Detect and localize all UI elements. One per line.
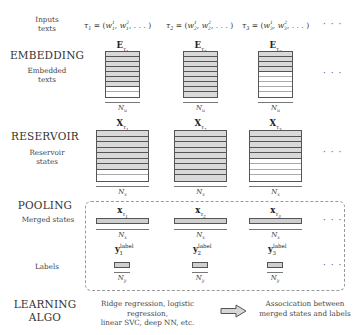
matrix-row bbox=[97, 175, 148, 181]
label-vector-label: ylabel3 bbox=[257, 243, 287, 256]
dimension-label: Nx bbox=[249, 188, 302, 197]
embedding-matrix bbox=[258, 51, 293, 98]
merged-state-label: xτ2 bbox=[174, 205, 227, 219]
reservoir-ellipsis: · · · bbox=[323, 147, 342, 157]
merged-state-label: xτ1 bbox=[96, 205, 149, 219]
input-text-1: τ1 = (w11, w21, . . . ) bbox=[84, 20, 151, 31]
dimension-line bbox=[114, 272, 130, 273]
dimension-label: Nu bbox=[105, 104, 140, 113]
dimension-line bbox=[174, 229, 227, 230]
dimension-label: Nx bbox=[249, 231, 302, 240]
merged-ellipsis: · · · bbox=[323, 215, 342, 225]
learning-result-line-1: Assocication between bbox=[250, 299, 360, 309]
pooling-title: POOLING bbox=[10, 199, 80, 211]
label-vector-label: ylabel2 bbox=[182, 243, 212, 256]
inputs-title: Inputs bbox=[22, 15, 72, 24]
merged-state-label: xτ3 bbox=[249, 205, 302, 219]
embedding-subtitle-1: Embedded bbox=[22, 66, 72, 75]
matrix-row bbox=[184, 92, 217, 97]
learning-title-1: LEARNING bbox=[10, 298, 80, 310]
dimension-line bbox=[249, 186, 302, 187]
merged-state-vector bbox=[174, 218, 227, 224]
learning-methods: Ridge regression, logistic regression, l… bbox=[80, 299, 215, 328]
dimension-line bbox=[96, 186, 149, 187]
dimension-line bbox=[249, 229, 302, 230]
dimension-label: Ny bbox=[188, 274, 212, 283]
dimension-label: Nx bbox=[96, 188, 149, 197]
dimension-label: Nx bbox=[174, 188, 227, 197]
inputs-ellipsis: · · · bbox=[323, 19, 342, 29]
embedding-matrix bbox=[183, 51, 218, 98]
learning-methods-line-1: Ridge regression, logistic regression, bbox=[80, 299, 215, 318]
dimension-label: Nu bbox=[183, 104, 218, 113]
embedding-matrix bbox=[105, 51, 140, 98]
dimension-line bbox=[96, 229, 149, 230]
label-vector bbox=[192, 262, 208, 268]
dimension-line bbox=[267, 272, 283, 273]
label-vector bbox=[114, 262, 130, 268]
reservoir-matrix bbox=[174, 130, 227, 182]
labels-ellipsis: · · · bbox=[323, 260, 342, 270]
merged-state-vector bbox=[96, 218, 149, 224]
label-vector bbox=[267, 262, 283, 268]
learning-title-2: ALGO bbox=[10, 311, 80, 323]
dimension-label: Ny bbox=[263, 274, 287, 283]
inputs-subtitle: texts bbox=[22, 24, 72, 33]
matrix-row bbox=[259, 92, 292, 97]
reservoir-subtitle-1: Reservoir bbox=[22, 148, 72, 157]
input-text-2: τ2 = (w12, w22, . . . ) bbox=[166, 20, 233, 31]
merged-states-label: Merged states bbox=[8, 215, 88, 224]
dimension-label: Nu bbox=[258, 104, 293, 113]
dimension-line bbox=[258, 102, 293, 103]
label-vector-label: ylabel1 bbox=[104, 243, 134, 256]
labels-label: Labels bbox=[22, 262, 72, 271]
dimension-label: Nx bbox=[174, 231, 227, 240]
embedding-subtitle-2: texts bbox=[22, 75, 72, 84]
reservoir-subtitle-2: states bbox=[22, 157, 72, 166]
dimension-line bbox=[183, 102, 218, 103]
reservoir-title: RESERVOIR bbox=[10, 130, 80, 142]
reservoir-matrix bbox=[249, 130, 302, 182]
learning-result: Assocication between merged states and l… bbox=[250, 299, 360, 318]
matrix-row bbox=[250, 175, 301, 181]
reservoir-matrix bbox=[96, 130, 149, 182]
dimension-line bbox=[192, 272, 208, 273]
learning-result-line-2: merged states and labels bbox=[250, 309, 360, 319]
learning-methods-line-2: linear SVC, deep NN, etc. bbox=[80, 318, 215, 328]
input-text-3: τ3 = (w13, w23, . . . ) bbox=[242, 20, 309, 31]
merged-state-vector bbox=[249, 218, 302, 224]
matrix-row bbox=[175, 175, 226, 181]
matrix-row bbox=[106, 92, 139, 97]
embedding-title: EMBEDDING bbox=[10, 49, 80, 61]
embedding-ellipsis: · · · bbox=[323, 68, 342, 78]
dimension-line bbox=[105, 102, 140, 103]
right-arrow-icon bbox=[220, 303, 248, 322]
dimension-line bbox=[174, 186, 227, 187]
dimension-label: Nx bbox=[96, 231, 149, 240]
dimension-label: Ny bbox=[110, 274, 134, 283]
